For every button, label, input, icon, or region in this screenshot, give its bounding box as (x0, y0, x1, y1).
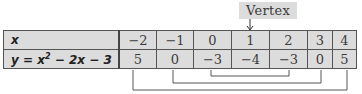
symmetry-brackets (0, 0, 362, 94)
inner-bracket (211, 70, 289, 76)
outer-bracket (133, 70, 347, 90)
